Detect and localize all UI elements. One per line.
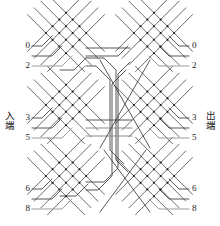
input-port-label-2: 2 xyxy=(20,61,30,70)
output-port-label-2: 2 xyxy=(192,61,202,70)
output-port-label-0: 0 xyxy=(192,41,202,50)
input-port-label-0: 0 xyxy=(20,41,30,50)
input-port-label-6: 6 xyxy=(20,184,30,193)
input-port-label-8: 8 xyxy=(20,204,30,213)
output-side-label-char-2: 端 xyxy=(205,121,217,131)
output-side-label: 出 端 xyxy=(205,111,217,131)
output-port-label-8: 8 xyxy=(192,204,202,213)
input-side-label: 入 端 xyxy=(4,111,16,131)
output-port-label-6: 6 xyxy=(192,184,202,193)
input-port-label-5: 5 xyxy=(20,133,30,142)
input-side-label-char-2: 端 xyxy=(4,121,16,131)
output-port-label-5: 5 xyxy=(192,133,202,142)
switching-network-svg xyxy=(0,0,220,226)
network-diagram: 0 2 3 5 6 8 0 2 3 5 6 8 入 端 出 端 xyxy=(0,0,220,226)
output-port-label-3: 3 xyxy=(192,113,202,122)
input-port-label-3: 3 xyxy=(20,113,30,122)
